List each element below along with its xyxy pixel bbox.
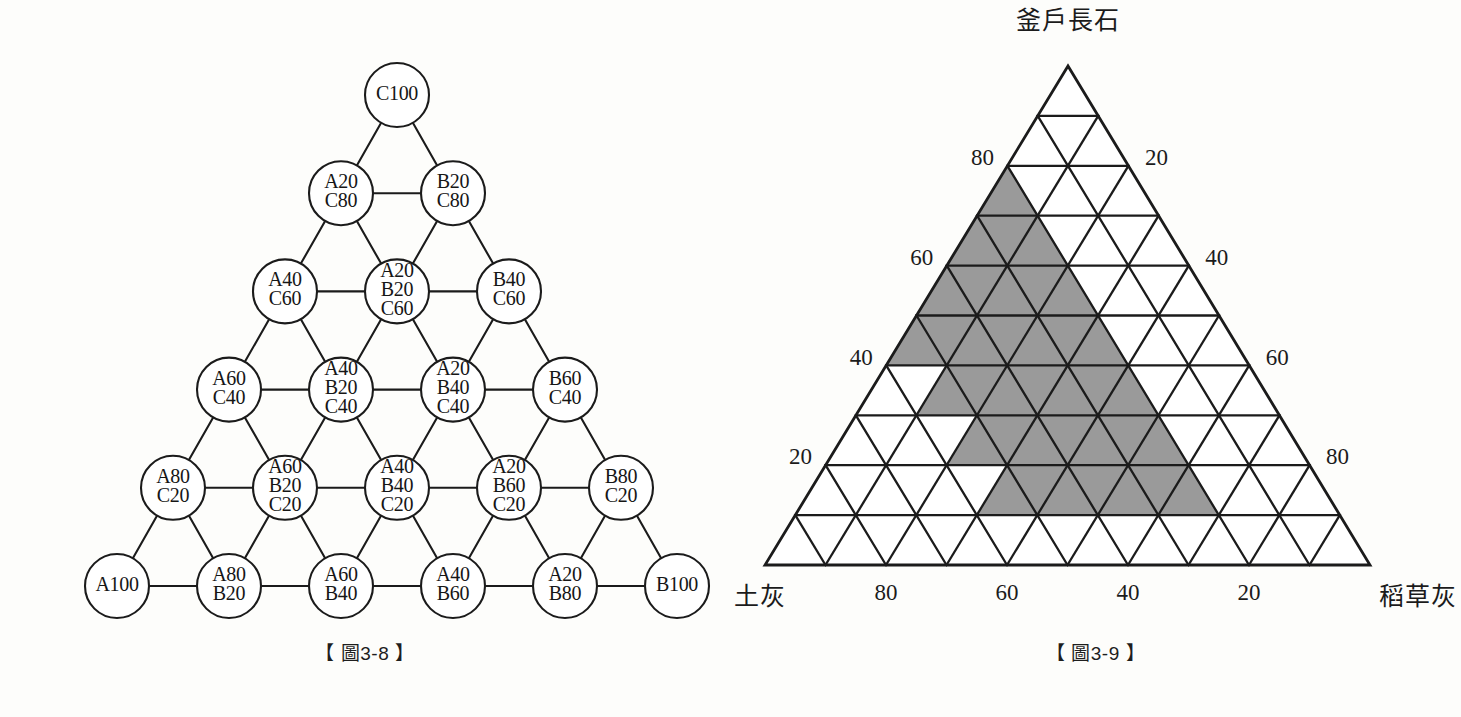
blend-node-label: C40 bbox=[437, 395, 470, 417]
blend-node[interactable]: A20B60C20 bbox=[477, 455, 541, 519]
blend-node-label: B100 bbox=[656, 573, 698, 595]
blend-node-label: C40 bbox=[549, 386, 582, 408]
blend-node-label: C20 bbox=[605, 484, 638, 506]
blend-node-label: C20 bbox=[493, 493, 526, 515]
vertex-label-bottom-left: 土灰 bbox=[734, 582, 786, 610]
blend-node[interactable]: A40B40C20 bbox=[365, 455, 429, 519]
axis-tick-bottom: 20 bbox=[1238, 580, 1261, 605]
figure-3-8-svg: C100A20C80B20C80A40C60A20B20C60B40C60A60… bbox=[0, 0, 730, 640]
page-root: C100A20C80B20C80A40C60A20B20C60B40C60A60… bbox=[0, 0, 1461, 717]
axis-tick-right: 20 bbox=[1145, 145, 1168, 170]
blend-node-label: C20 bbox=[269, 493, 302, 515]
axis-tick-bottom: 40 bbox=[1117, 580, 1140, 605]
figure-3-8-panel: C100A20C80B20C80A40C60A20B20C60B40C60A60… bbox=[0, 0, 730, 717]
blend-node-label: C80 bbox=[325, 189, 358, 211]
figure-3-8-caption: 【 圖3-8 】 bbox=[0, 638, 730, 665]
blend-node[interactable]: A40B20C40 bbox=[309, 357, 373, 421]
blend-node-label: C60 bbox=[269, 287, 302, 309]
blend-node-label: B20 bbox=[213, 582, 246, 604]
axis-tick-right: 60 bbox=[1266, 345, 1289, 370]
axis-tick-left: 60 bbox=[910, 245, 933, 270]
blend-node[interactable]: A80B20 bbox=[197, 554, 261, 618]
blend-node[interactable]: A20B20C60 bbox=[365, 259, 429, 323]
axis-tick-bottom: 60 bbox=[996, 580, 1019, 605]
blend-node[interactable]: B40C60 bbox=[477, 259, 541, 323]
blend-node-label: C60 bbox=[493, 287, 526, 309]
ternary-cell bbox=[1038, 66, 1099, 116]
blend-node[interactable]: A60B20C20 bbox=[253, 455, 317, 519]
axis-tick-left: 80 bbox=[971, 145, 994, 170]
blend-node[interactable]: A20B40C40 bbox=[421, 357, 485, 421]
blend-node[interactable]: C100 bbox=[365, 63, 429, 127]
axis-tick-bottom: 80 bbox=[875, 580, 898, 605]
blend-node[interactable]: B100 bbox=[645, 554, 709, 618]
blend-node[interactable]: A20C80 bbox=[309, 161, 373, 225]
axis-tick-right: 80 bbox=[1326, 444, 1349, 469]
blend-node[interactable]: B80C20 bbox=[589, 456, 653, 520]
axis-tick-right: 40 bbox=[1205, 245, 1228, 270]
figure-3-9-panel: 806040202040608080604020釜戶長石土灰稻草灰 【 圖3-9… bbox=[730, 0, 1461, 717]
axis-tick-left: 20 bbox=[789, 444, 812, 469]
blend-node-label: B60 bbox=[437, 582, 470, 604]
blend-node[interactable]: A60C40 bbox=[197, 358, 261, 422]
blend-node[interactable]: A40B60 bbox=[421, 554, 485, 618]
blend-node[interactable]: A20B80 bbox=[533, 554, 597, 618]
figure-3-9-svg: 806040202040608080604020釜戶長石土灰稻草灰 bbox=[730, 0, 1461, 640]
blend-node-label: A100 bbox=[95, 573, 139, 595]
axis-tick-left: 40 bbox=[850, 345, 873, 370]
blend-node-label: C80 bbox=[437, 189, 470, 211]
blend-node[interactable]: A40C60 bbox=[253, 259, 317, 323]
blend-node-label: C20 bbox=[157, 484, 190, 506]
node-circles-group: C100A20C80B20C80A40C60A20B20C60B40C60A60… bbox=[85, 63, 709, 618]
blend-node[interactable]: B20C80 bbox=[421, 161, 485, 225]
blend-node-label: B80 bbox=[549, 582, 582, 604]
blend-node[interactable]: A80C20 bbox=[141, 456, 205, 520]
vertex-label-bottom-right: 稻草灰 bbox=[1379, 582, 1457, 610]
figure-3-9-caption: 【 圖3-9 】 bbox=[730, 638, 1461, 665]
blend-node-label: C100 bbox=[376, 82, 418, 104]
blend-node-label: C40 bbox=[325, 395, 358, 417]
blend-node-label: C40 bbox=[213, 386, 246, 408]
blend-node[interactable]: B60C40 bbox=[533, 358, 597, 422]
blend-node[interactable]: A100 bbox=[85, 554, 149, 618]
blend-node-label: B40 bbox=[325, 582, 358, 604]
blend-node-label: C60 bbox=[381, 297, 414, 319]
vertex-label-top: 釜戶長石 bbox=[1016, 6, 1120, 34]
blend-node-label: C20 bbox=[381, 493, 414, 515]
blend-node[interactable]: A60B40 bbox=[309, 554, 373, 618]
